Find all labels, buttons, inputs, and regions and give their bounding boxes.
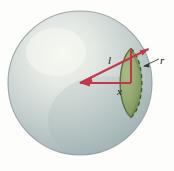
label-axis-distance-x: x: [117, 86, 122, 97]
sphere-highlight: [26, 28, 86, 76]
sphere-cap-figure: l r x: [0, 0, 174, 171]
label-cap-radius-r: r: [160, 55, 164, 66]
label-slant-l: l: [108, 55, 111, 66]
sphere-cap-diagram-svg: [0, 0, 174, 171]
